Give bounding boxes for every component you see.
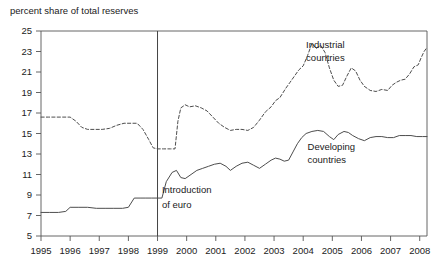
y-tick-label: 9: [27, 189, 32, 200]
x-tick-label: 2000: [176, 245, 197, 256]
series-label-countries: countries: [308, 154, 347, 165]
x-tick-label: 2002: [234, 245, 255, 256]
series-label-countries: countries: [306, 52, 345, 63]
x-tick-label: 2004: [293, 245, 314, 256]
x-tick-label: 2001: [205, 245, 226, 256]
x-tick-label: 1998: [118, 245, 139, 256]
y-tick-label: 25: [21, 25, 32, 36]
x-tick-label: 2007: [380, 245, 401, 256]
x-tick-label: 2003: [263, 245, 284, 256]
x-tick-label: 1996: [60, 245, 81, 256]
x-tick-label: 1997: [89, 245, 110, 256]
y-tick-label: 21: [21, 66, 32, 77]
x-tick-label: 2006: [351, 245, 372, 256]
introduction-of-euro-label-line2: of euro: [162, 199, 192, 210]
reserves-share-line-chart: percent share of total reserves 57911131…: [0, 0, 446, 273]
series-label-industrial: Industrial: [306, 39, 345, 50]
x-tick-label: 2008: [409, 245, 430, 256]
x-tick-label: 1999: [147, 245, 168, 256]
y-tick-label: 11: [22, 169, 32, 180]
x-tick-label: 1995: [30, 245, 51, 256]
y-tick-label: 13: [21, 148, 32, 159]
series-label-developing: Developing: [308, 141, 356, 152]
y-tick-label: 15: [21, 128, 32, 139]
y-tick-label: 5: [27, 230, 32, 241]
y-tick-label: 23: [21, 46, 32, 57]
x-tick-label: 2005: [322, 245, 343, 256]
y-tick-label: 17: [21, 107, 32, 118]
chart-container: percent share of total reserves 57911131…: [0, 0, 446, 273]
y-tick-label: 7: [27, 210, 32, 221]
y-tick-label: 19: [21, 87, 32, 98]
introduction-of-euro-label-line1: Introduction: [162, 184, 212, 195]
chart-title: percent share of total reserves: [10, 5, 139, 16]
